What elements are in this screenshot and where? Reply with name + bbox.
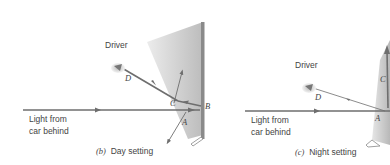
point-c-c: C <box>380 74 386 84</box>
caption-c: (c) Night setting <box>295 147 356 157</box>
rearview-mirror-diagram: Driver D C A B Light from car behind (b)… <box>0 0 390 165</box>
mirror-silvered-back <box>201 22 205 139</box>
point-b-b: B <box>205 101 210 111</box>
point-c-b: C <box>170 98 176 108</box>
mirror-mount <box>191 137 203 146</box>
light-label-b: Light from car behind <box>29 114 69 136</box>
diagram-graphics <box>0 0 390 165</box>
light-label-c: Light from car behind <box>251 115 291 137</box>
point-a-c: A <box>375 113 380 123</box>
caption-b: (b) Day setting <box>96 146 153 156</box>
point-d-b: D <box>125 73 131 83</box>
point-d-c: D <box>315 92 321 102</box>
point-a-b: A <box>182 117 187 127</box>
mirror-wedge <box>147 22 203 139</box>
driver-label-c: Driver <box>295 60 318 70</box>
driver-label-b: Driver <box>105 40 128 50</box>
